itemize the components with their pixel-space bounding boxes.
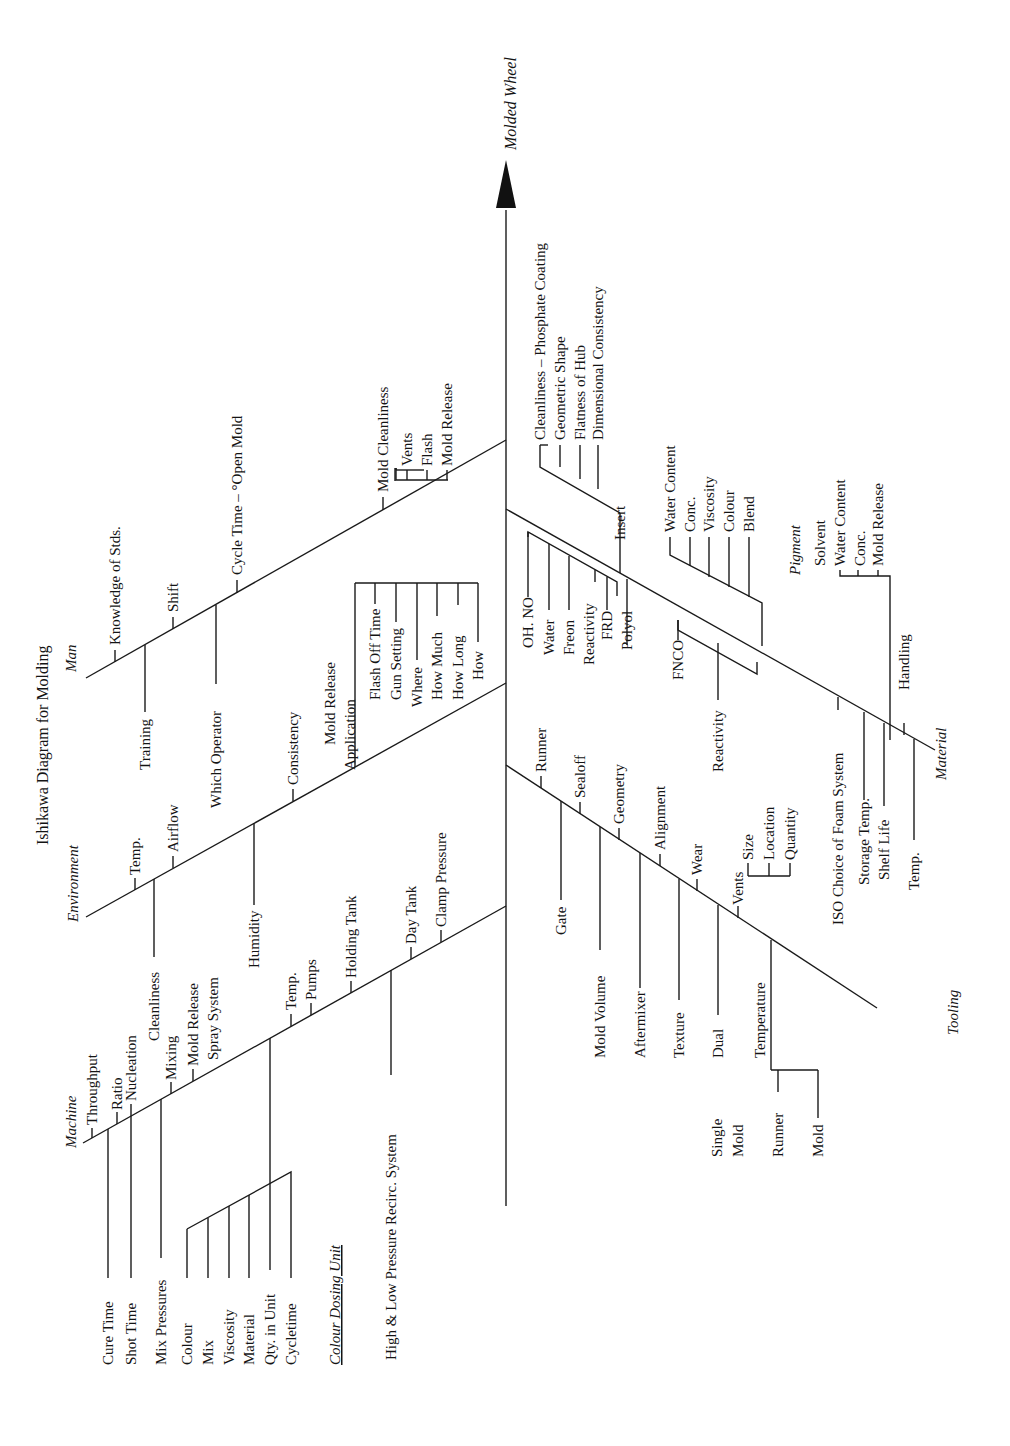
cdu-material: Material: [241, 1314, 257, 1365]
material-label: Material: [933, 728, 949, 782]
environment-cause-cleanliness: Cleanliness: [146, 972, 162, 1041]
pigment-colour: Colour: [721, 490, 737, 532]
mold-cleanliness-mold-release: Mold Release: [439, 383, 455, 466]
machine-cause-recirc-system: High & Low Pressure Recirc. System: [383, 1134, 399, 1360]
tooling-single-mold-line1: Single: [709, 1118, 725, 1157]
polyol-water: Water: [541, 620, 557, 655]
mold-cleanliness-flash: Flash: [419, 433, 435, 466]
mold-release-application-line2: Application: [342, 699, 358, 770]
material-cause-fnco: FNCO: [670, 640, 686, 680]
man-label: Man: [63, 645, 79, 674]
material-cause-iso-choice: ISO Choice of Foam System: [830, 752, 846, 925]
machine-branch: [83, 906, 506, 1278]
insert-cleanliness: Cleanliness – Phosphate Coating: [532, 242, 548, 440]
machine-cause-mixing: Mixing: [163, 1035, 179, 1080]
effect-arrow-icon: [496, 160, 516, 208]
material-cause-temp: Temp.: [906, 852, 922, 890]
pigment-blend: Blend: [741, 496, 757, 532]
material-cause-reactivity: Reactivity: [710, 710, 726, 772]
machine-cause-temp: Temp.: [283, 972, 299, 1010]
mold-release-solvent: Solvent: [812, 519, 828, 566]
environment-cause-temp: Temp.: [127, 837, 143, 875]
mra-how: How: [470, 651, 486, 680]
tooling-cause-geometry: Geometry: [611, 764, 627, 824]
tooling-cause-alignment: Alignment: [652, 785, 668, 850]
polyol-reactivity: Reactivity: [581, 603, 597, 665]
environment-cause-consistency: Consistency: [285, 711, 301, 785]
polyol-frd: FRD: [599, 611, 615, 640]
tooling-cause-aftermixer: Aftermixer: [632, 991, 648, 1058]
cdu-cycletime: Cycletime: [283, 1303, 299, 1365]
mra-how-much: How Much: [429, 632, 445, 700]
man-cause-which-operator: Which Operator: [208, 711, 224, 808]
machine-cause-day-tank: Day Tank: [403, 885, 419, 944]
tooling-vents-quantity: Quantity: [782, 807, 798, 860]
machine-cause-nucleation: Nucleation: [123, 1035, 139, 1101]
tooling-branch: [506, 765, 877, 1118]
environment-label: Environment: [65, 844, 81, 923]
tooling-cause-temperature: Temperature: [752, 982, 768, 1058]
insert-dimensional-consistency: Dimensional Consistency: [590, 286, 606, 440]
tooling-cause-sealoff: Sealoff: [572, 755, 588, 798]
effect-label: Molded Wheel: [502, 57, 519, 151]
mold-cleanliness-vents: Vents: [399, 433, 415, 466]
environment-cause-humidity: Humidity: [246, 910, 262, 968]
machine-cause-mix-pressures: Mix Pressures: [153, 1279, 169, 1365]
tooling-temperature-runner: Runner: [770, 1113, 786, 1157]
pigment-water-content: Water Content: [662, 444, 678, 532]
material-cause-shelf-life: Shelf Life: [876, 819, 892, 880]
mra-where: Where: [409, 667, 425, 707]
polyol-oh-no: OH. NO: [520, 597, 536, 648]
tooling-cause-texture: Texture: [671, 1012, 687, 1058]
material-cause-insert: Insert: [612, 505, 628, 540]
man-cause-shift: Shift: [165, 582, 181, 612]
diagram-title: Ishikawa Diagram for Molding: [34, 645, 52, 845]
polyol-freon: Freon: [561, 620, 577, 655]
machine-cause-holding-tank: Holding Tank: [343, 895, 359, 978]
mra-how-long: How Long: [450, 635, 466, 700]
machine-cause-spray-system: Spray System: [205, 977, 221, 1060]
environment-cause-airflow: Airflow: [165, 804, 181, 852]
mold-release-conc: Conc.: [852, 531, 868, 566]
man-cause-mold-cleanliness: Mold Cleanliness: [375, 386, 391, 492]
man-cause-knowledge: Knowledge of Stds.: [107, 526, 123, 645]
material-cause-handling: Handling: [896, 634, 912, 690]
cdu-mix: Mix: [200, 1339, 216, 1365]
machine-label: Machine: [63, 1095, 79, 1149]
ishikawa-diagram: Molded Wheel Ishikawa Diagram for Moldin…: [0, 0, 1010, 1446]
machine-cause-shot-time: Shot Time: [123, 1303, 139, 1365]
material-cause-polyol: Polyol: [619, 611, 635, 650]
tooling-temperature-mold: Mold: [810, 1124, 826, 1157]
man-cause-training: Training: [137, 718, 153, 770]
insert-flatness-of-hub: Flatness of Hub: [572, 345, 588, 440]
man-cause-cycle-time: Cycle Time – °Open Mold: [229, 415, 245, 575]
mra-flash-off-time: Flash Off Time: [367, 608, 383, 700]
pigment-label: Pigment: [787, 524, 803, 576]
mold-release-application-line1: Mold Release: [322, 662, 338, 745]
tooling-label: Tooling: [945, 989, 961, 1035]
colour-dosing-unit-label: Colour Dosing Unit: [327, 1244, 343, 1365]
pigment-viscosity: Viscosity: [701, 476, 717, 532]
mra-gun-setting: Gun Setting: [388, 627, 404, 700]
cdu-viscosity: Viscosity: [221, 1309, 237, 1365]
tooling-cause-vents: Vents: [730, 872, 746, 905]
tooling-cause-dual: Dual: [710, 1029, 726, 1058]
mold-release-water-content: Water Content: [832, 478, 848, 566]
mold-release-label: Mold Release: [870, 483, 886, 566]
machine-cause-mold-release: Mold Release: [185, 983, 201, 1066]
machine-cause-throughput: Throughput: [84, 1053, 100, 1125]
tooling-single-mold-line2: Mold: [730, 1124, 746, 1157]
material-cause-storage-temp: Storage Temp.: [856, 798, 872, 885]
tooling-cause-gate: Gate: [553, 906, 569, 935]
tooling-cause-runner: Runner: [533, 728, 549, 772]
pigment-conc: Conc.: [682, 497, 698, 532]
machine-cause-pumps: Pumps: [303, 959, 319, 1000]
cdu-qty-in-unit: Qty. in Unit: [262, 1293, 278, 1365]
machine-cause-clamp-pressure: Clamp Pressure: [433, 832, 449, 927]
cdu-colour: Colour: [179, 1323, 195, 1365]
tooling-vents-size: Size: [740, 834, 756, 860]
tooling-vents-location: Location: [761, 806, 777, 860]
machine-cause-cure-time: Cure Time: [100, 1301, 116, 1365]
insert-geometric-shape: Geometric Shape: [552, 336, 568, 440]
tooling-cause-mold-volume: Mold Volume: [592, 975, 608, 1058]
